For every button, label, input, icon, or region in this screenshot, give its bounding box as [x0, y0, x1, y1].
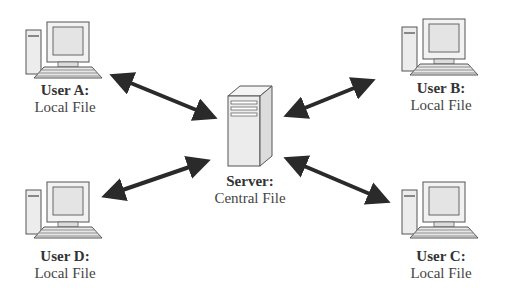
user-b-subtitle: Local File — [396, 97, 486, 114]
user-d-title: User D: — [20, 248, 110, 265]
computer-icon — [20, 176, 110, 242]
arrow-user-d-server — [108, 162, 204, 195]
user-b-title: User B: — [396, 80, 486, 97]
user-d-subtitle: Local File — [20, 265, 110, 282]
computer-icon — [20, 16, 110, 82]
server-tower-icon — [205, 84, 295, 170]
arrow-user-b-server — [290, 82, 369, 114]
user-a-node: User A: Local File — [20, 16, 110, 116]
arrow-user-a-server — [116, 77, 211, 116]
server-subtitle: Central File — [205, 190, 295, 207]
arrow-user-c-server — [290, 160, 384, 200]
server-title: Server: — [205, 173, 295, 190]
user-a-subtitle: Local File — [20, 99, 110, 116]
server-node: Server: Central File — [205, 84, 295, 207]
computer-icon — [396, 12, 486, 80]
user-c-node: User C: Local File — [396, 176, 486, 282]
user-a-title: User A: — [20, 82, 110, 99]
user-c-title: User C: — [396, 248, 486, 265]
computer-icon — [396, 176, 486, 242]
user-c-subtitle: Local File — [396, 265, 486, 282]
user-d-node: User D: Local File — [20, 176, 110, 282]
user-b-node: User B: Local File — [396, 12, 486, 114]
